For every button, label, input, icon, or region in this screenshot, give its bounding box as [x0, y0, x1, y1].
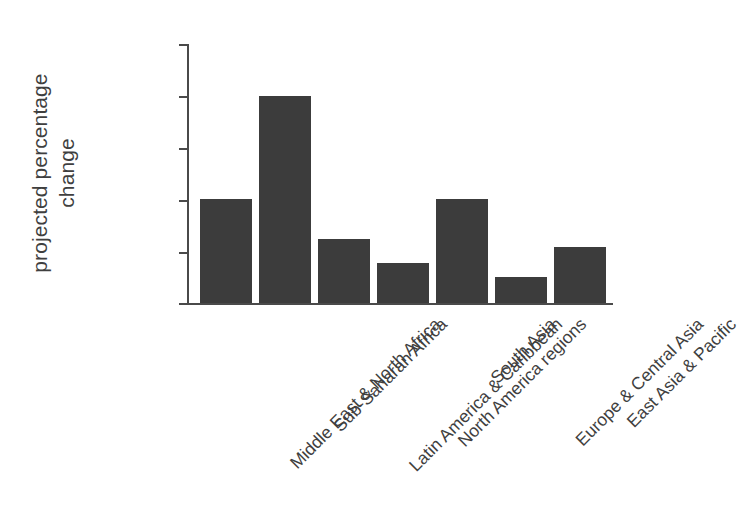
- x-label-europe-central-asia: Europe & Central Asia: [571, 314, 707, 450]
- x-label-north-america-regions: North America regions: [454, 314, 591, 451]
- x-label-sub-saharan-africa: Sub-Saharan Africa: [329, 314, 450, 435]
